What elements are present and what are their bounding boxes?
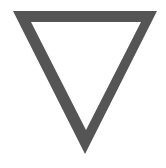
triangle-down-icon [0, 0, 166, 168]
canvas [0, 0, 166, 168]
triangle-outline [13, 11, 157, 154]
